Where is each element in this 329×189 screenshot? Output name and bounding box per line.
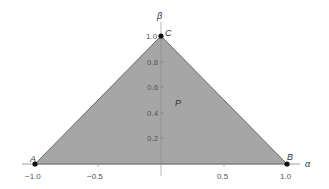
x-tick-neg1: −1.0 <box>25 172 41 181</box>
y-tick-08: 0.8 <box>147 58 159 67</box>
region-p-label: P <box>175 98 181 108</box>
x-tick-neg05: −0.5 <box>87 172 103 181</box>
vertex-a-label: A <box>29 154 36 164</box>
vertex-b-label: B <box>287 152 293 162</box>
y-tick-04: 0.4 <box>147 109 159 118</box>
beta-label: β <box>156 11 162 21</box>
vertex-b <box>284 161 289 166</box>
x-tick-1: 1.0 <box>280 172 292 181</box>
vertex-c-label: C <box>165 28 172 38</box>
y-tick-1: 1.0 <box>146 32 158 41</box>
vertex-c <box>158 33 163 38</box>
x-tick-05: 0.5 <box>217 172 229 181</box>
triangle-diagram: −1.0 −0.5 0.5 1.0 0.2 0.4 0.6 0.8 1.0 α … <box>0 0 329 189</box>
y-tick-06: 0.6 <box>147 83 159 92</box>
y-tick-02: 0.2 <box>147 134 159 143</box>
alpha-label: α <box>305 159 311 169</box>
